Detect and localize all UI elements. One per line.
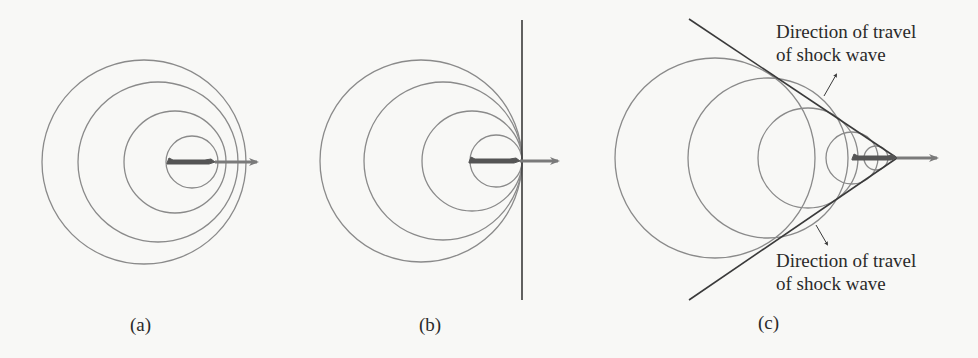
annotation-lower-line2: of shock wave (776, 272, 916, 295)
shock-direction-pointer-icon (824, 75, 836, 96)
jet-plane-icon (852, 154, 897, 160)
annotation-lower-line1: Direction of travel (776, 249, 916, 272)
caption-b: (b) (419, 314, 441, 336)
shock-direction-pointer-icon (816, 225, 827, 244)
panel-a-subsonic (42, 60, 257, 264)
caption-a: (a) (130, 314, 151, 336)
annotation-lower: Direction of travel of shock wave (776, 249, 916, 295)
jet-plane-icon (167, 158, 215, 164)
jet-plane-icon (469, 157, 520, 163)
annotation-upper-line2: of shock wave (776, 43, 916, 66)
panel-b-sonic (320, 20, 558, 300)
wavefront-circle (615, 58, 815, 258)
annotation-upper-line1: Direction of travel (776, 20, 916, 43)
annotation-upper: Direction of travel of shock wave (776, 20, 916, 66)
wavefront-circle (688, 78, 848, 238)
caption-c: (c) (758, 312, 779, 334)
